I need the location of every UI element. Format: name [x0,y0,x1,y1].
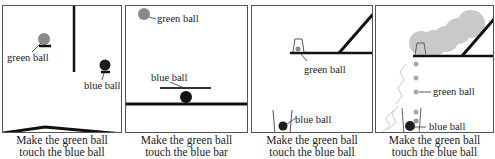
caption-2: Make the green ball touch the blue bar [125,134,248,158]
green-ball-label: green ball [157,13,199,24]
green-ball-label: green ball [304,64,346,75]
motion-trail-balls [409,10,485,56]
caption-1: Make the green ball touch the blue ball [2,134,122,158]
blue-ball-icon [100,60,111,71]
caption-3: Make the green ball touch the blue ball [251,134,373,158]
green-ball-icon [296,47,301,52]
blue-ball-icon [180,91,192,103]
blue-ball-icon [405,121,415,131]
green-ball-icon [414,119,419,124]
green-ball-icon [38,33,50,45]
green-ball-label: green ball [7,52,49,63]
puzzle-panel-1: green ball blue ball [2,5,122,133]
blue-ball-label: blue ball [84,80,120,91]
ramp-bar [339,13,373,53]
caption-4: Make the green ball touch the blue ball [375,134,494,158]
green-ball-trail [414,62,419,115]
green-ball-icon [138,8,150,20]
blue-ball-label: blue ball [295,114,331,125]
panel-2-scene [126,6,248,133]
green-ball-label: green ball [433,86,475,97]
blue-cup-left [273,110,275,133]
puzzle-panel-2: green ball blue ball [125,5,248,133]
panel-1-scene [3,6,122,133]
puzzle-panel-4: green ball blue ball [375,5,494,133]
blue-ball-icon [279,122,288,131]
floor-ramp [3,127,122,133]
cup-motion-trail [382,64,406,132]
puzzle-panel-3: green ball blue ball [251,5,373,133]
blue-ball-label: blue ball [151,72,187,83]
blue-ball-label: blue ball [429,121,465,132]
panel-4-scene [376,6,494,133]
